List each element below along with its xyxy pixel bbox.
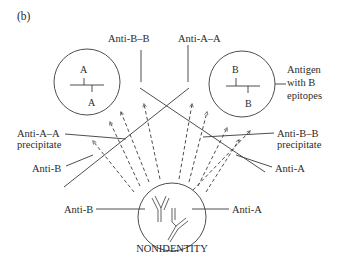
anti-a-well-label: Anti-A [232,204,262,215]
caption-nonidentity: NONIDENTITY [136,243,208,254]
antigen-b-label-line2: with B [287,77,315,88]
anti-a-label-right: Anti-A [275,163,305,174]
antigen-b-well: B B Antigen with B epitopes [209,51,322,117]
antibody-anti-a-icon [168,208,188,242]
anti-b-b-precipitate-label-line2: precipitate [277,139,322,150]
epitope-a-top-label: A [80,64,88,75]
anti-a-a-precipitate-label-line2: precipitate [17,139,62,150]
epitope-b-top-label: B [232,64,239,75]
antibody-well: Anti-B Anti-A [64,183,262,251]
anti-b-b-precipitate-label-line1: Anti-B–B [277,128,318,139]
anti-a-a-precipitate-label-line1: Anti-A–A [17,128,60,139]
antigen-b-label-line3: epitopes [287,90,322,101]
antigen-a-well: A A [54,49,120,115]
precipitin-line-a [64,88,189,187]
diffusion-arrows [93,104,250,192]
panel-label: (b) [17,10,31,23]
anti-a-a-label: Anti-A–A [178,33,221,44]
epitope-b-bottom-label: B [245,98,252,109]
epitope-a-bottom-label: A [88,97,96,108]
antibody-anti-b-icon [152,196,169,222]
anti-b-b-label: Anti-B–B [108,33,149,44]
antigen-b-label-line1: Antigen [287,64,322,75]
anti-b-label-left: Anti-B [32,163,61,174]
nonidentity-diagram: (b) A A B B Antigen with B epitopes Anti… [0,0,344,271]
anti-b-well-label: Anti-B [64,204,93,215]
